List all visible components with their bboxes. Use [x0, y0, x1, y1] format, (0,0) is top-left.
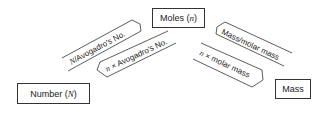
node-mass: Mass [275, 79, 311, 99]
node-moles-label: Moles ( [160, 13, 190, 23]
node-number-close: ) [74, 89, 77, 99]
node-number-label: Number ( [30, 89, 68, 99]
node-moles-close: ) [194, 13, 197, 23]
node-number: Number (N) [17, 83, 90, 104]
node-moles: Moles (n) [152, 8, 205, 28]
node-mass-label: Mass [282, 84, 304, 94]
